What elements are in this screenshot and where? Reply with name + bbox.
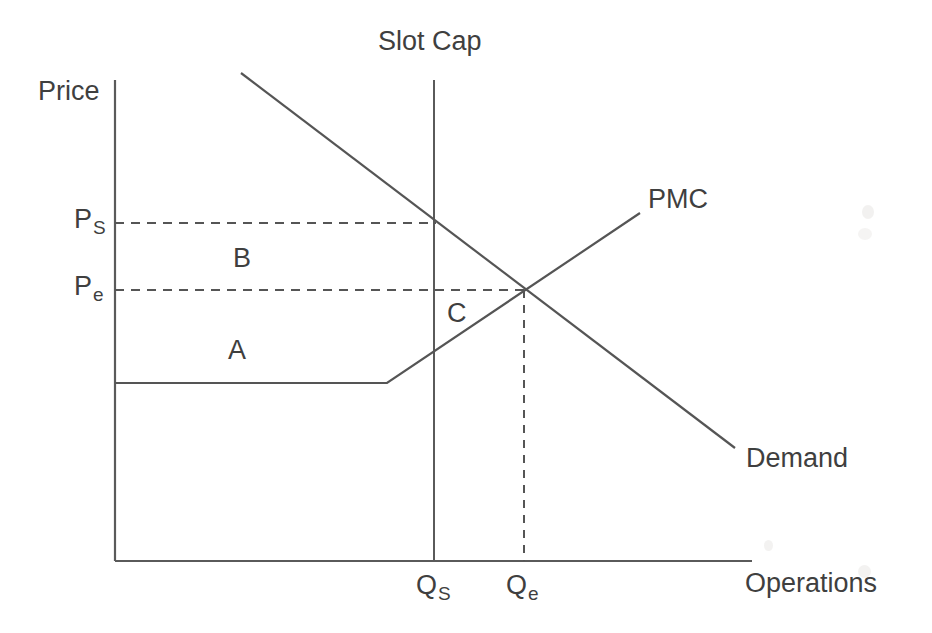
area-label-a: A	[228, 337, 246, 364]
price-tick-pe-base: P	[74, 271, 92, 301]
demand-curve	[241, 73, 735, 448]
x-axis-label: Operations	[745, 570, 877, 597]
area-label-b: B	[233, 245, 251, 272]
quantity-tick-qe-base: Q	[506, 570, 527, 600]
quantity-tick-qs-sub: S	[438, 583, 451, 604]
price-tick-pe: Pe	[74, 273, 103, 300]
price-tick-pe-sub: e	[93, 284, 104, 305]
quantity-tick-qe-sub: e	[528, 583, 539, 604]
price-tick-ps-base: P	[74, 204, 92, 234]
pmc-curve	[115, 213, 640, 383]
scan-speck	[858, 565, 871, 578]
scan-speck	[764, 540, 773, 551]
demand-curve-label: Demand	[746, 445, 848, 472]
quantity-tick-qe: Qe	[506, 572, 538, 599]
scan-speck	[862, 205, 874, 219]
price-tick-ps: PS	[74, 206, 105, 233]
economics-diagram: Price Operations Slot Cap PMC Demand PS …	[0, 0, 932, 633]
price-tick-ps-sub: S	[93, 217, 106, 238]
area-label-c: C	[447, 300, 467, 327]
y-axis-label: Price	[38, 78, 100, 105]
slot-cap-label: Slot Cap	[378, 28, 482, 55]
quantity-tick-qs: QS	[416, 572, 450, 599]
scan-speck	[858, 228, 872, 240]
quantity-tick-qs-base: Q	[416, 570, 437, 600]
pmc-curve-label: PMC	[648, 186, 708, 213]
